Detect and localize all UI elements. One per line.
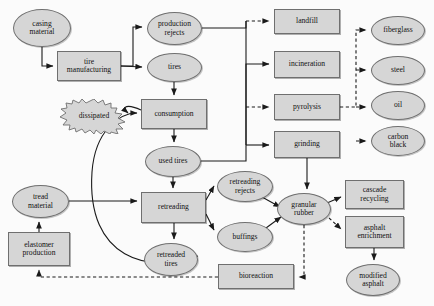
node-label: incineration bbox=[287, 60, 327, 69]
node-label: buffings bbox=[230, 233, 259, 242]
trunk-lines bbox=[202, 21, 246, 145]
node-label: asphaltenrichment bbox=[355, 224, 393, 241]
node-label: retreadedtires bbox=[155, 251, 187, 268]
node-label: grinding bbox=[292, 140, 322, 149]
node-retreading[interactable]: retreading bbox=[141, 192, 206, 223]
node-label: modifiedasphalt bbox=[357, 272, 388, 289]
node-steel[interactable]: steel bbox=[371, 56, 425, 85]
node-dissipated[interactable]: dissipated bbox=[58, 99, 130, 134]
node-label: casingmaterial bbox=[28, 20, 57, 37]
node-label: tires bbox=[166, 63, 183, 72]
node-label: consumption bbox=[152, 110, 195, 119]
node-consumption[interactable]: consumption bbox=[141, 99, 207, 129]
node-label: cascaderecycling bbox=[358, 186, 390, 203]
node-granular-rubber[interactable]: granularrubber bbox=[277, 193, 331, 225]
node-label: granularrubber bbox=[289, 201, 318, 218]
node-modified-asphalt[interactable]: modifiedasphalt bbox=[346, 264, 400, 296]
node-label: productionrejects bbox=[156, 20, 193, 37]
node-landfill[interactable]: landfill bbox=[274, 9, 340, 34]
node-tread-material[interactable]: treadmaterial bbox=[12, 185, 69, 218]
flow-diagram-canvas: casingmaterial tiremanufacturing product… bbox=[0, 0, 434, 306]
node-pyrolysis[interactable]: pyrolysis bbox=[274, 94, 340, 120]
node-production-rejects[interactable]: productionrejects bbox=[147, 12, 202, 45]
node-carbon-black[interactable]: carbonblack bbox=[371, 126, 425, 156]
node-label: steel bbox=[389, 66, 407, 75]
node-buffings[interactable]: buffings bbox=[217, 222, 273, 252]
node-grinding[interactable]: grinding bbox=[274, 131, 340, 158]
node-incineration[interactable]: incineration bbox=[274, 51, 340, 78]
node-tires[interactable]: tires bbox=[147, 53, 202, 82]
node-label: used tires bbox=[157, 157, 190, 166]
node-label: retreadingrejects bbox=[228, 178, 263, 195]
node-retreading-rejects[interactable]: retreadingrejects bbox=[217, 171, 273, 202]
node-label: elastomerproduction bbox=[21, 241, 58, 258]
node-asphalt-enrichment[interactable]: asphaltenrichment bbox=[345, 216, 404, 248]
node-label: fiberglass bbox=[381, 26, 414, 35]
node-label: dissipated bbox=[77, 112, 111, 121]
node-label: landfill bbox=[294, 17, 320, 26]
node-label: oil bbox=[392, 101, 404, 110]
node-tire-manufacturing[interactable]: tiremanufacturing bbox=[57, 51, 121, 81]
node-retreaded-tires[interactable]: retreadedtires bbox=[144, 243, 198, 276]
node-elastomer-production[interactable]: elastomerproduction bbox=[8, 232, 70, 266]
node-label: carbonblack bbox=[386, 133, 411, 150]
node-used-tires[interactable]: used tires bbox=[145, 146, 201, 177]
node-label: pyrolysis bbox=[291, 103, 323, 112]
node-fiberglass[interactable]: fiberglass bbox=[371, 16, 425, 45]
node-label: bioreaction bbox=[237, 272, 275, 281]
node-oil[interactable]: oil bbox=[371, 91, 425, 120]
node-casing-material[interactable]: casingmaterial bbox=[13, 9, 71, 47]
node-label: retreading bbox=[156, 203, 191, 212]
node-cascade-recycling[interactable]: cascaderecycling bbox=[345, 180, 404, 209]
node-bioreaction[interactable]: bioreaction bbox=[218, 264, 294, 289]
node-label: treadmaterial bbox=[26, 193, 55, 210]
node-label: tiremanufacturing bbox=[65, 58, 113, 75]
